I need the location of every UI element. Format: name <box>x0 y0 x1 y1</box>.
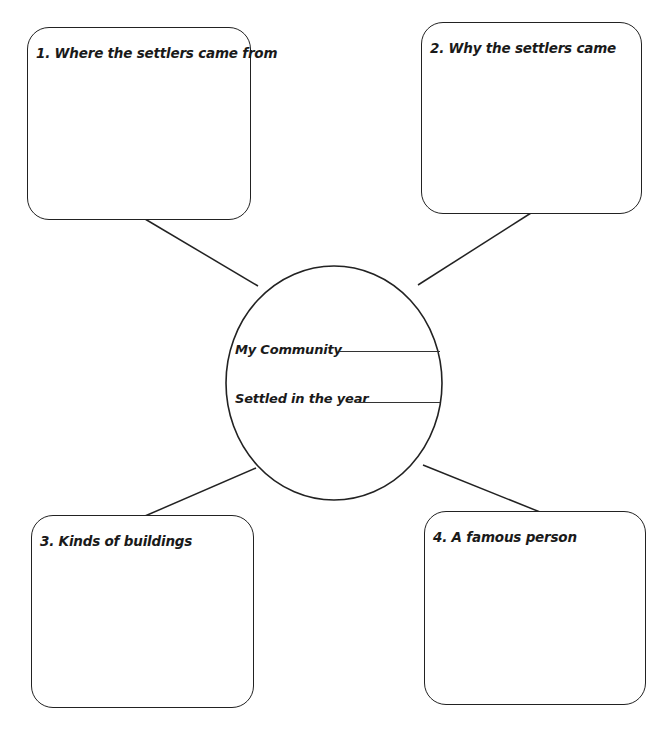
box-famous-person[interactable]: 4. A famous person <box>424 511 646 705</box>
settled-year-label: Settled in the year <box>235 391 368 406</box>
my-community-blank[interactable] <box>339 351 440 352</box>
box-label: 3. Kinds of buildings <box>40 533 192 549</box>
box-where-settlers-came-from[interactable]: 1. Where the settlers came from <box>27 27 251 220</box>
connector-box3 <box>145 468 256 516</box>
my-community-label: My Community <box>235 342 342 357</box>
box-kinds-of-buildings[interactable]: 3. Kinds of buildings <box>31 515 254 708</box>
connector-box1 <box>145 219 258 286</box>
box-label: 4. A famous person <box>433 529 577 545</box>
connector-box4 <box>423 465 540 512</box>
box-label: 2. Why the settlers came <box>430 40 616 56</box>
box-label: 1. Where the settlers came from <box>36 45 277 61</box>
center-ellipse <box>226 266 442 500</box>
box-why-settlers-came[interactable]: 2. Why the settlers came <box>421 22 642 214</box>
connector-box2 <box>418 213 531 285</box>
settled-year-blank[interactable] <box>356 402 440 403</box>
